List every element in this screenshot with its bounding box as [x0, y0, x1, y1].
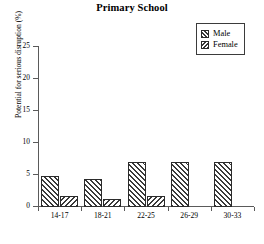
bar-male-22-25 [128, 162, 146, 207]
legend-swatch-male-icon [201, 30, 209, 38]
y-axis-line [38, 47, 39, 207]
y-axis-title: Potential for serious disruption (%) [14, 0, 23, 145]
y-tick-label: 15 [23, 105, 30, 114]
y-tick: 5 [33, 174, 39, 175]
x-tick-label: 30-33 [224, 211, 242, 220]
x-tick-label: 22-25 [137, 211, 155, 220]
x-tick [124, 207, 125, 211]
legend-swatch-female-icon [201, 41, 209, 49]
x-tick-label: 18-21 [94, 211, 112, 220]
bar-male-18-21 [84, 179, 102, 207]
y-tick: 20 [33, 78, 39, 79]
x-tick [211, 207, 212, 211]
y-tick: 15 [33, 110, 39, 111]
bar-chart: Primary School Potential for serious dis… [0, 0, 264, 244]
x-tick [254, 207, 255, 211]
legend-label-female: Female [213, 40, 238, 49]
bar-male-26-29 [171, 162, 189, 207]
x-tick [168, 207, 169, 211]
y-tick-label: 0 [26, 201, 30, 210]
y-tick: 25 [33, 46, 39, 47]
chart-legend: Male Female [196, 23, 245, 55]
x-tick-label: 26-29 [180, 211, 198, 220]
bar-female-18-21 [103, 199, 121, 207]
y-tick: 10 [33, 142, 39, 143]
y-tick-label: 25 [23, 41, 30, 50]
bar-female-22-25 [147, 196, 165, 207]
chart-title: Primary School [0, 2, 264, 13]
y-tick-label: 10 [23, 137, 30, 146]
legend-item-male[interactable]: Male [201, 29, 238, 38]
x-tick [38, 207, 39, 211]
legend-label-male: Male [213, 29, 230, 38]
bar-female-14-17 [60, 196, 78, 207]
x-tick-label: 14-17 [51, 211, 69, 220]
bar-male-14-17 [41, 176, 59, 207]
bar-male-30-33 [214, 162, 232, 207]
plot-area: 0510152025 [38, 47, 254, 207]
legend-item-female[interactable]: Female [201, 40, 238, 49]
y-tick-label: 5 [26, 169, 30, 178]
y-tick-label: 20 [23, 73, 30, 82]
x-tick [81, 207, 82, 211]
